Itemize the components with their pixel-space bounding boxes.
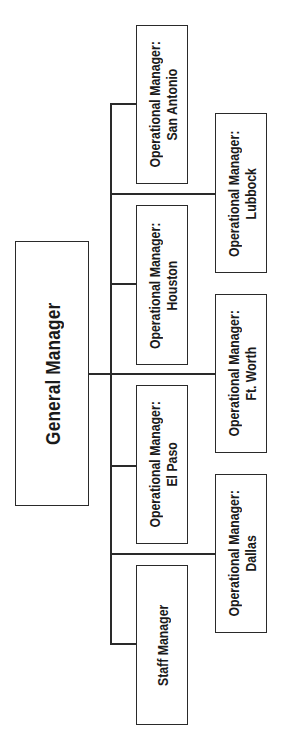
location-name: El Paso	[162, 442, 179, 486]
dallas-label: Operational Manager: Dallas	[217, 476, 266, 632]
location-name: Houston	[162, 260, 179, 310]
general-manager-label: General Manager	[17, 243, 88, 505]
role-title: Operational Manager:	[224, 310, 241, 436]
connector-general-manager	[88, 373, 215, 375]
connector-houston	[110, 283, 136, 285]
connector-san-antonio	[110, 103, 136, 105]
role-title: Operational Manager:	[145, 222, 162, 348]
connector-el-paso	[110, 465, 136, 467]
role-title: Operational Manager:	[224, 490, 241, 616]
staff-manager-label: Staff Manager	[138, 567, 187, 724]
san-antonio-label: Operational Manager: San Antonio	[138, 27, 187, 183]
lubbock-label: Operational Manager: Lubbock	[217, 115, 266, 272]
role-title: Operational Manager:	[145, 401, 162, 527]
location-name: Lubbock	[241, 167, 258, 218]
general-manager-box: General Manager	[15, 241, 89, 506]
operational-manager-ft-worth-box: Operational Manager: Ft. Worth	[215, 294, 267, 453]
location-name: Dallas	[241, 535, 258, 571]
role-title: Operational Manager:	[145, 41, 162, 167]
connector-staff-manager	[110, 643, 136, 645]
operational-manager-san-antonio-box: Operational Manager: San Antonio	[136, 25, 188, 184]
location-name: Ft. Worth	[241, 347, 258, 401]
houston-label: Operational Manager: Houston	[138, 207, 187, 364]
operational-manager-lubbock-box: Operational Manager: Lubbock	[215, 113, 267, 273]
connector-lubbock	[110, 193, 215, 195]
operational-manager-houston-box: Operational Manager: Houston	[136, 205, 188, 365]
org-chart: General Manager Operational Manager: San…	[0, 0, 288, 750]
role-title: Staff Manager	[154, 604, 171, 685]
location-name: San Antonio	[162, 69, 179, 141]
el-paso-label: Operational Manager: El Paso	[138, 387, 187, 543]
general-manager-title: General Manager	[40, 302, 64, 444]
operational-manager-dallas-box: Operational Manager: Dallas	[215, 474, 267, 633]
connector-dallas	[110, 553, 215, 555]
staff-manager-box: Staff Manager	[136, 565, 188, 725]
ft-worth-label: Operational Manager: Ft. Worth	[217, 296, 266, 452]
role-title: Operational Manager:	[224, 130, 241, 256]
operational-manager-el-paso-box: Operational Manager: El Paso	[136, 385, 188, 544]
